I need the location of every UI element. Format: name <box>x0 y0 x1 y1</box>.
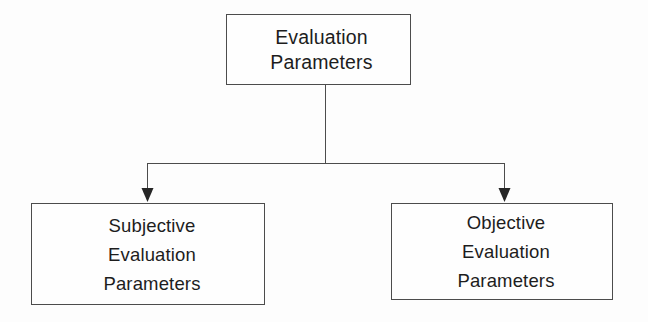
node-subjective-line-2: Evaluation <box>100 240 196 269</box>
node-objective-line-1: Objective <box>459 208 545 237</box>
node-subjective-line-1: Subjective <box>101 211 196 240</box>
node-objective-line-2: Evaluation <box>454 237 550 266</box>
arrowhead-right-icon <box>499 188 511 202</box>
node-subjective-evaluation-parameters[interactable]: Subjective Evaluation Parameters <box>31 203 265 305</box>
node-root-line-1: Evaluation <box>269 25 368 50</box>
node-root-line-2: Parameters <box>264 50 372 75</box>
arrowhead-left-icon <box>142 188 154 202</box>
node-evaluation-parameters[interactable]: Evaluation Parameters <box>226 14 411 85</box>
node-subjective-line-3: Parameters <box>95 269 200 298</box>
node-objective-evaluation-parameters[interactable]: Objective Evaluation Parameters <box>391 203 613 300</box>
diagram-canvas: Evaluation Parameters Subjective Evaluat… <box>0 0 648 322</box>
node-objective-line-3: Parameters <box>449 266 554 295</box>
